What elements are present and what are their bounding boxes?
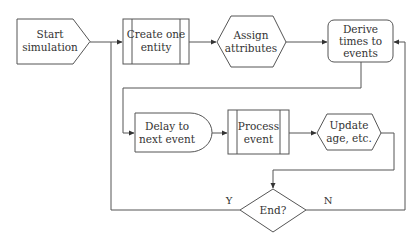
node-delay-line-1: Delay to <box>145 120 189 132</box>
flowchart: Y N Start simulation Create one entity A… <box>0 0 418 240</box>
node-assign-attributes: Assign attributes <box>217 16 286 67</box>
node-update-line-2: age, etc. <box>326 132 372 144</box>
node-end-decision: End? <box>240 189 306 232</box>
node-derive-times-to-events: Derive times to events <box>328 20 393 62</box>
node-start-line-1: Start <box>37 28 65 40</box>
edge-label-no: N <box>324 195 333 206</box>
node-assign-line-2: attributes <box>225 42 277 54</box>
node-update-line-1: Update <box>330 119 369 131</box>
node-process-event: Process event <box>228 110 289 154</box>
node-derive-line-1: Derive <box>343 23 378 35</box>
edge-label-yes: Y <box>225 195 233 206</box>
node-create-line-1: Create one <box>127 28 186 40</box>
node-assign-line-1: Assign <box>232 29 268 41</box>
node-start-line-2: simulation <box>22 41 78 53</box>
node-process-line-1: Process <box>238 120 279 132</box>
node-delay-line-2: next event <box>139 133 196 145</box>
node-create-one-entity: Create one entity <box>123 19 189 64</box>
node-end-label: End? <box>260 204 287 216</box>
node-create-line-2: entity <box>141 41 172 53</box>
node-derive-line-2: times to <box>339 35 382 47</box>
node-delay-to-next-event: Delay to next event <box>135 113 212 152</box>
node-update-age: Update age, etc. <box>317 114 381 150</box>
node-process-line-2: event <box>244 133 274 145</box>
node-derive-line-3: events <box>343 47 378 59</box>
node-start-simulation: Start simulation <box>17 19 90 64</box>
